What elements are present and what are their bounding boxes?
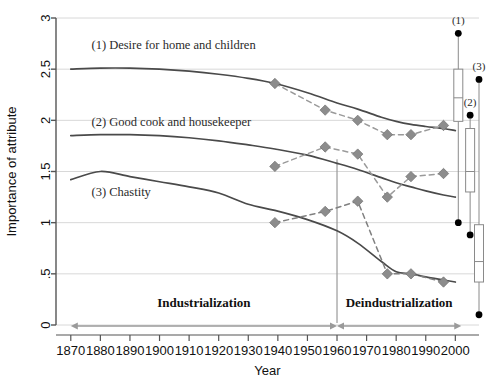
boxplot-box	[466, 129, 475, 192]
x-tick-label: 1990	[411, 343, 440, 358]
x-tick-label: 1960	[323, 343, 352, 358]
x-tick-label: 1880	[86, 343, 115, 358]
y-axis-title: Importance of attribute	[4, 106, 19, 236]
series-marker-diamond	[382, 269, 392, 279]
boxplot-label: (2)	[464, 96, 477, 109]
boxplot-box	[475, 225, 484, 282]
y-tick-label: 1	[38, 219, 53, 226]
chart-container: 0.511.522.53Importance of attribute18701…	[0, 0, 487, 383]
era-arrow-head-right	[454, 322, 461, 329]
y-tick-label: 1.5	[38, 162, 53, 180]
x-tick-label: 1910	[175, 343, 204, 358]
series-annotation-label: (1) Desire for home and children	[91, 38, 256, 52]
era-arrow-head-left	[71, 322, 78, 329]
series-marker-diamond	[382, 129, 392, 139]
series-marker-diamond	[270, 161, 280, 171]
series-marker-diamond	[270, 78, 280, 88]
x-tick-label: 1920	[204, 343, 233, 358]
boxplot-upper-point	[455, 30, 462, 37]
boxplot-upper-point	[476, 76, 483, 83]
x-axis-title: Year	[254, 363, 281, 378]
boxplot-label: (3)	[473, 60, 486, 73]
boxplot-lower-point	[455, 219, 462, 226]
series-annotation-label: (3) Chastity	[91, 185, 151, 199]
x-tick-label: 1890	[115, 343, 144, 358]
series-marker-diamond	[353, 196, 363, 206]
x-tick-label: 2000	[441, 343, 470, 358]
series-marker-diamond	[270, 217, 280, 227]
series-marker-diamond	[320, 105, 330, 115]
y-tick-label: 2.5	[38, 60, 53, 78]
series-marker-diamond	[406, 269, 416, 279]
series-marker-diamond	[320, 206, 330, 216]
importance-of-attribute-chart: 0.511.522.53Importance of attribute18701…	[0, 0, 487, 383]
boxplot-label: (1)	[452, 14, 465, 27]
y-tick-label: 0	[38, 321, 53, 328]
series-marker-diamond	[353, 115, 363, 125]
boxplot-lower-point	[476, 311, 483, 318]
era-arrow-head-right	[330, 322, 337, 329]
series-marker-diamond	[438, 277, 448, 287]
series-marker-diamond	[353, 149, 363, 159]
x-tick-label: 1940	[263, 343, 292, 358]
boxplot-upper-point	[467, 112, 474, 119]
x-tick-label: 1930	[234, 343, 263, 358]
x-tick-label: 1870	[56, 343, 85, 358]
series-marker-diamond	[320, 142, 330, 152]
series-marker-diamond	[438, 168, 448, 178]
boxplot-box	[454, 69, 463, 121]
y-tick-label: 2	[38, 117, 53, 124]
x-tick-label: 1950	[293, 343, 322, 358]
x-tick-label: 1980	[382, 343, 411, 358]
series-line-dashed	[275, 201, 444, 282]
y-tick-label: 3	[38, 14, 53, 21]
y-tick-label: .5	[38, 268, 53, 279]
x-tick-label: 1970	[352, 343, 381, 358]
era-label: Deindustrialization	[346, 295, 454, 310]
era-label: Industrialization	[157, 295, 251, 310]
x-tick-label: 1900	[145, 343, 174, 358]
series-annotation-label: (2) Good cook and housekeeper	[91, 115, 252, 129]
era-arrow-head-left	[337, 322, 344, 329]
series-marker-diamond	[406, 129, 416, 139]
boxplot-lower-point	[467, 232, 474, 239]
